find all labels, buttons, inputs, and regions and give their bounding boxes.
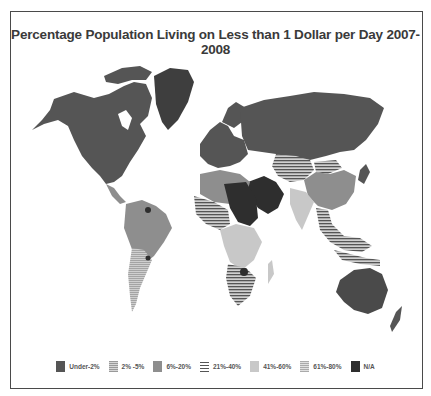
legend-swatch-na <box>351 361 360 372</box>
legend-swatch-6-20 <box>153 361 162 372</box>
legend-label: 2% -5% <box>122 363 145 370</box>
region-central-america <box>106 184 126 204</box>
legend-item-61-80: 61%-80% <box>300 361 341 372</box>
legend-label: 41%-60% <box>263 363 291 370</box>
region-arctic-islands <box>104 66 152 84</box>
region-guyana-na <box>145 207 151 213</box>
region-paraguay-na <box>146 256 151 261</box>
map-title: Percentage Population Living on Less tha… <box>0 27 431 57</box>
region-central-africa <box>220 224 262 270</box>
legend-item-2-5: 2% -5% <box>109 361 145 372</box>
region-north-america <box>32 82 152 184</box>
world-map <box>14 64 416 350</box>
legend-label: 61%-80% <box>313 363 341 370</box>
region-new-zealand <box>390 306 402 332</box>
legend-swatch-2-5 <box>109 361 118 372</box>
legend-label: Under-2% <box>69 363 99 370</box>
region-australia <box>336 268 388 314</box>
legend-label: N/A <box>364 363 375 370</box>
region-southeast-asia <box>316 208 372 252</box>
legend-label: 21%-40% <box>213 363 241 370</box>
region-indonesia <box>334 250 380 266</box>
region-madagascar <box>268 260 274 284</box>
region-zimbabwe-na <box>240 268 248 276</box>
legend-item-na: N/A <box>351 361 375 372</box>
legend-item-41-60: 41%-60% <box>250 361 291 372</box>
region-europe <box>200 122 248 168</box>
legend-swatch-61-80 <box>300 361 309 372</box>
legend-swatch-21-40 <box>200 361 209 372</box>
legend-swatch-41-60 <box>250 361 259 372</box>
region-japan <box>358 164 370 184</box>
region-greenland <box>154 68 194 130</box>
map-legend: Under-2% 2% -5% 6%-20% 21%-40% 41%-60% 6… <box>0 361 431 372</box>
legend-swatch-under-2 <box>56 361 65 372</box>
legend-item-21-40: 21%-40% <box>200 361 241 372</box>
legend-item-6-20: 6%-20% <box>153 361 191 372</box>
legend-label: 6%-20% <box>166 363 191 370</box>
region-russia <box>240 92 384 160</box>
legend-item-under-2: Under-2% <box>56 361 99 372</box>
